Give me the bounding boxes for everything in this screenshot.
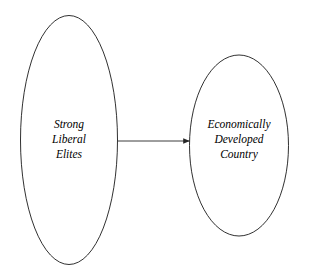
node-label-line: Liberal	[19, 132, 119, 147]
node-label-line: Country	[189, 147, 289, 162]
diagram-canvas: Strong Liberal Elites Economically Devel…	[0, 0, 309, 277]
node-label-line: Strong	[19, 117, 119, 132]
node-label-line: Developed	[189, 132, 289, 147]
node-label-line: Elites	[19, 147, 119, 162]
node-label-economically-developed-country: Economically Developed Country	[189, 117, 289, 163]
node-label-line: Economically	[189, 117, 289, 132]
node-label-strong-liberal-elites: Strong Liberal Elites	[19, 117, 119, 163]
